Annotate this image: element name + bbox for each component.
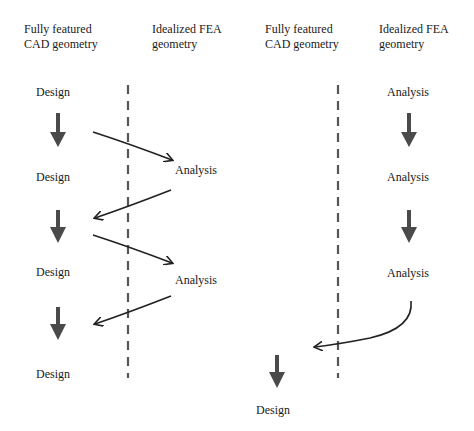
arrow-design-to-analysis-1: [93, 132, 172, 160]
arrow-analysis-to-design-2: [95, 296, 171, 324]
left-down-arrow-2: [50, 210, 66, 243]
diagram-graphics: [0, 0, 474, 431]
right-down-arrow-2: [401, 210, 417, 243]
arrow-analysis-to-design-final: [315, 301, 411, 347]
arrow-analysis-to-design-1: [95, 190, 171, 218]
left-down-arrow-3: [50, 307, 66, 340]
right-down-arrow-1: [401, 113, 417, 147]
left-down-arrow-1: [50, 113, 66, 147]
right-down-arrow-final: [269, 355, 285, 388]
arrow-design-to-analysis-2: [93, 235, 172, 263]
diagram-canvas: Fully featured CAD geometry Idealized FE…: [0, 0, 474, 431]
